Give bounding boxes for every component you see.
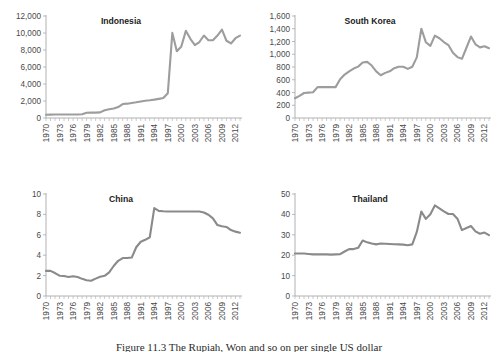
x-tick-label: 1997 — [413, 302, 422, 321]
y-tick-label: 50 — [281, 190, 291, 199]
x-tick-label: 1976 — [69, 302, 78, 321]
x-tick-label: 1994 — [150, 302, 159, 321]
y-tick-label: 30 — [281, 231, 291, 240]
x-tick-label: 1985 — [110, 124, 119, 143]
y-tick-label: 2 — [36, 272, 41, 281]
y-tick-label: 200 — [276, 101, 290, 110]
y-tick-label: 10 — [281, 272, 291, 281]
x-tick-label: 1991 — [386, 302, 395, 321]
x-tick-label: 2000 — [177, 302, 186, 321]
x-tick-label: 1997 — [164, 124, 173, 143]
x-tick-label: 2012 — [231, 124, 240, 143]
y-tick-label: 10 — [32, 190, 42, 199]
x-tick-label: 1988 — [123, 302, 132, 321]
x-tick-label: 2003 — [191, 124, 200, 143]
chart-title-thailand: Thailand — [352, 194, 387, 204]
y-tick-label: 0 — [285, 292, 290, 301]
y-tick-label: 12,000 — [16, 12, 41, 21]
x-tick-label: 2006 — [453, 124, 462, 143]
chart-svg-indonesia: 02,0004,0006,0008,00010,00012,0001970197… — [0, 2, 249, 174]
x-tick-label: 1985 — [110, 302, 119, 321]
x-tick-label: 1991 — [386, 124, 395, 143]
chart-title-indonesia: Indonesia — [101, 16, 141, 26]
x-tick-label: 2000 — [426, 302, 435, 321]
x-tick-label: 1994 — [399, 124, 408, 143]
x-tick-label: 2003 — [440, 302, 449, 321]
x-tick-label: 2012 — [231, 302, 240, 321]
y-tick-label: 1,400 — [270, 25, 291, 34]
y-tick-label: 20 — [281, 251, 291, 260]
chart-panel-china: 0246810197019731976197919821985198819911… — [0, 180, 249, 352]
x-tick-label: 1982 — [345, 124, 354, 143]
x-tick-label: 1979 — [332, 124, 341, 143]
x-tick-label: 1991 — [137, 302, 146, 321]
y-tick-label: 0 — [285, 114, 290, 123]
x-tick-label: 2000 — [177, 124, 186, 143]
x-tick-label: 1973 — [305, 124, 314, 143]
x-tick-label: 1988 — [372, 124, 381, 143]
x-tick-label: 1988 — [123, 124, 132, 143]
y-tick-label: 40 — [281, 210, 291, 219]
x-tick-label: 1976 — [318, 302, 327, 321]
x-tick-label: 1982 — [96, 302, 105, 321]
x-tick-label: 1994 — [399, 302, 408, 321]
data-series-line — [295, 205, 489, 254]
y-tick-label: 1,600 — [270, 12, 291, 21]
y-tick-label: 0 — [36, 114, 41, 123]
chart-panel-thailand: 0102030405019701973197619791982198519881… — [249, 180, 498, 352]
y-tick-label: 4,000 — [21, 80, 42, 89]
x-tick-label: 1994 — [150, 124, 159, 143]
y-tick-label: 10,000 — [16, 29, 41, 38]
data-series-line — [46, 30, 240, 115]
x-tick-label: 1979 — [332, 302, 341, 321]
x-tick-label: 1970 — [291, 124, 300, 143]
x-tick-label: 1982 — [96, 124, 105, 143]
y-tick-label: 800 — [276, 63, 290, 72]
x-tick-label: 2009 — [467, 302, 476, 321]
x-tick-label: 1988 — [372, 302, 381, 321]
figure-caption-strip: Figure 11.3 The Rupiah, Won and so on pe… — [0, 341, 498, 352]
y-tick-label: 400 — [276, 89, 290, 98]
x-tick-label: 2006 — [204, 124, 213, 143]
y-tick-label: 8 — [36, 210, 41, 219]
x-tick-label: 1970 — [42, 302, 51, 321]
y-tick-label: 6,000 — [21, 63, 42, 72]
chart-svg-southkorea: 02004006008001,0001,2001,4001,6001970197… — [249, 2, 498, 174]
data-series-line — [46, 208, 240, 281]
x-tick-label: 2003 — [440, 124, 449, 143]
x-tick-label: 1973 — [56, 302, 65, 321]
figure-caption: Figure 11.3 The Rupiah, Won and so on pe… — [0, 341, 498, 352]
x-tick-label: 1979 — [83, 124, 92, 143]
data-series-line — [295, 29, 489, 99]
chart-svg-thailand: 0102030405019701973197619791982198519881… — [249, 180, 498, 352]
y-tick-label: 600 — [276, 76, 290, 85]
chart-panel-southkorea: 02004006008001,0001,2001,4001,6001970197… — [249, 2, 498, 174]
x-tick-label: 2000 — [426, 124, 435, 143]
x-tick-label: 1973 — [56, 124, 65, 143]
x-tick-label: 1982 — [345, 302, 354, 321]
y-tick-label: 1,200 — [270, 38, 291, 47]
chart-title-china: China — [109, 194, 133, 204]
y-tick-label: 4 — [36, 251, 41, 260]
y-tick-label: 0 — [36, 292, 41, 301]
y-tick-label: 8,000 — [21, 46, 42, 55]
x-tick-label: 1976 — [69, 124, 78, 143]
chart-title-southkorea: South Korea — [344, 16, 395, 26]
chart-panel-indonesia: 02,0004,0006,0008,00010,00012,0001970197… — [0, 2, 249, 174]
x-tick-label: 2006 — [204, 302, 213, 321]
x-tick-label: 1997 — [164, 302, 173, 321]
x-tick-label: 1979 — [83, 302, 92, 321]
x-tick-label: 1973 — [305, 302, 314, 321]
x-tick-label: 2012 — [480, 302, 489, 321]
x-tick-label: 2009 — [467, 124, 476, 143]
x-tick-label: 1970 — [42, 124, 51, 143]
x-tick-label: 1970 — [291, 302, 300, 321]
x-tick-label: 2003 — [191, 302, 200, 321]
x-tick-label: 2012 — [480, 124, 489, 143]
x-tick-label: 1997 — [413, 124, 422, 143]
figure-panel-grid: 02,0004,0006,0008,00010,00012,0001970197… — [0, 0, 498, 352]
chart-svg-china: 0246810197019731976197919821985198819911… — [0, 180, 249, 352]
y-tick-label: 1,000 — [270, 50, 291, 59]
y-tick-label: 2,000 — [21, 97, 42, 106]
x-tick-label: 2009 — [218, 302, 227, 321]
